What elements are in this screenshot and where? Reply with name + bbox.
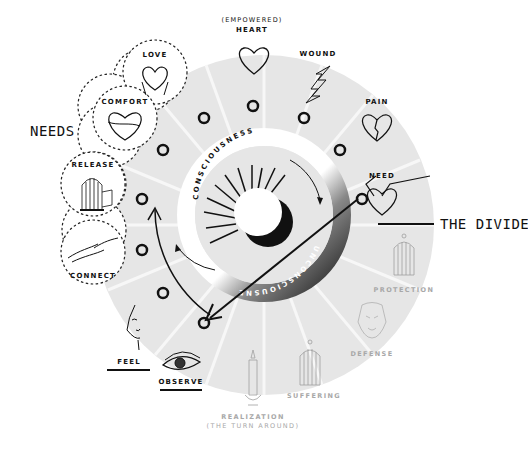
release-label: RELEASE — [71, 161, 114, 169]
observe-label: OBSERVE — [158, 378, 203, 386]
needs-title: NEEDS — [30, 123, 75, 139]
divide-label: THE DIVIDE — [440, 216, 528, 232]
wound-label: WOUND — [299, 50, 336, 58]
pain-label: PAIN — [365, 98, 388, 106]
comfort-label: COMFORT — [101, 98, 148, 106]
connect-label: CONNECT — [70, 272, 116, 280]
realization-sublabel: (THE TURN AROUND) — [207, 422, 300, 430]
love-label: LOVE — [143, 51, 168, 59]
realization-label: REALIZATION — [221, 413, 285, 421]
defense-label: DEFENSE — [350, 350, 393, 358]
suffering-label: SUFFERING — [287, 392, 341, 400]
sun-icon — [234, 188, 282, 236]
healing-cycle-diagram: CONSCIOUSNESS UNCONSCIOUSNESS — [0, 0, 528, 453]
feel-label: FEEL — [117, 358, 141, 366]
protection-label: PROTECTION — [374, 286, 435, 294]
heart-label: HEART — [236, 26, 268, 34]
heart-sublabel: (EMPOWERED) — [221, 16, 282, 24]
